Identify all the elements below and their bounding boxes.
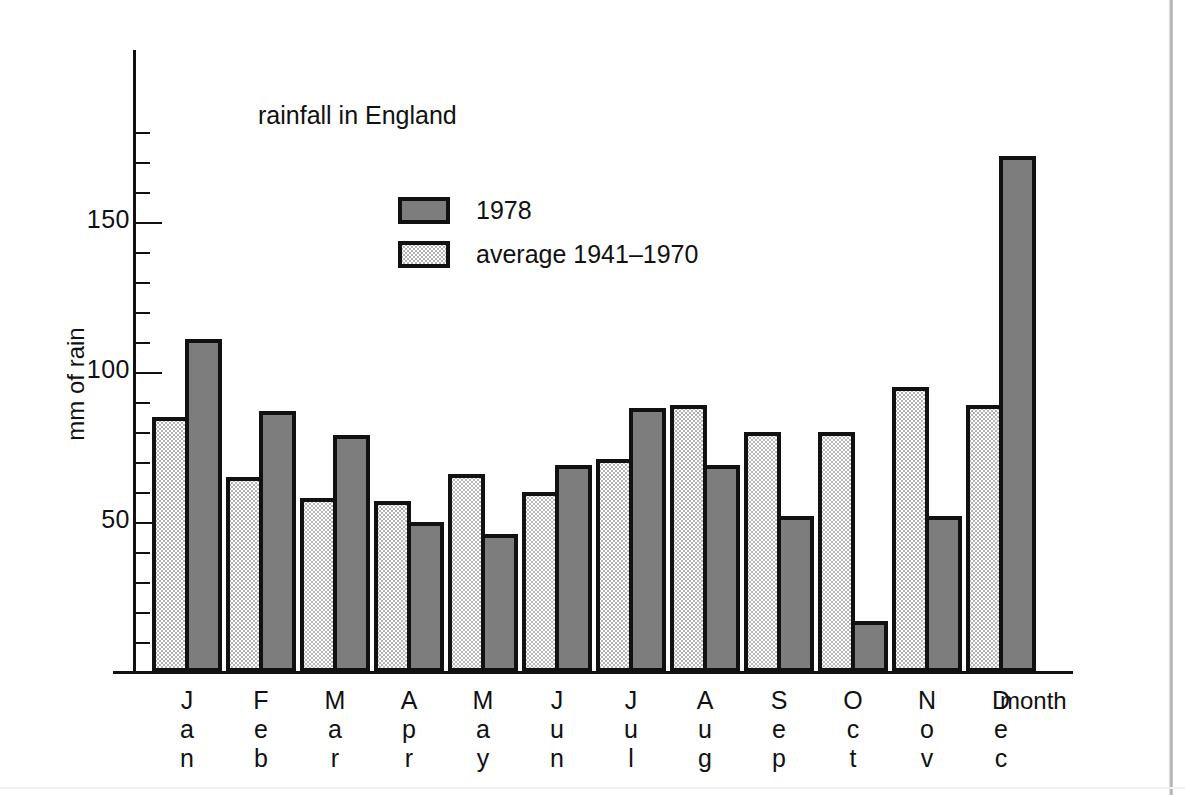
bar-1978-jun xyxy=(555,465,592,672)
bar-1978-jan xyxy=(185,339,222,672)
bar-average-apr xyxy=(374,501,411,672)
bar-average-jan xyxy=(152,417,189,672)
month-label-char: J xyxy=(152,686,222,715)
month-label-may: May xyxy=(448,686,518,773)
bar-1978-dec xyxy=(999,156,1036,672)
scan-edge-bottom xyxy=(0,787,1185,789)
month-label-char: r xyxy=(300,744,370,773)
legend-label-average: average 1941–1970 xyxy=(476,240,698,269)
y-tick-minor-70 xyxy=(136,462,150,464)
y-axis-title: mm of rain xyxy=(62,294,90,474)
bar-1978-may xyxy=(481,534,518,672)
month-label-mar: Mar xyxy=(300,686,370,773)
y-tick-minor-110 xyxy=(136,342,150,344)
month-label-jul: Jul xyxy=(596,686,666,773)
y-tick-label-50: 50 xyxy=(60,505,130,534)
month-label-char: t xyxy=(818,744,888,773)
month-label-aug: Aug xyxy=(670,686,740,773)
bar-average-jun xyxy=(522,492,559,672)
month-label-char: p xyxy=(374,715,444,744)
y-tick-minor-20 xyxy=(136,612,150,614)
y-tick-minor-60 xyxy=(136,492,150,494)
bar-average-oct xyxy=(818,432,855,672)
month-label-feb: Feb xyxy=(226,686,296,773)
month-label-char: A xyxy=(670,686,740,715)
bar-1978-jul xyxy=(629,408,666,672)
y-tick-minor-90 xyxy=(136,402,150,404)
legend-label-1978: 1978 xyxy=(476,196,532,225)
legend-swatch-average xyxy=(398,241,450,268)
y-tick-minor-30 xyxy=(136,582,150,584)
month-label-char: A xyxy=(374,686,444,715)
y-tick-label-100: 100 xyxy=(60,355,130,384)
month-label-char: M xyxy=(448,686,518,715)
month-label-char: b xyxy=(226,744,296,773)
legend-swatch-1978 xyxy=(398,197,450,224)
month-label-dec: Dec xyxy=(966,686,1036,773)
rainfall-bar-chart: rainfall in England mm of rain month 501… xyxy=(0,0,1185,795)
y-tick-major-100 xyxy=(136,372,162,374)
month-label-char: a xyxy=(448,715,518,744)
bar-1978-mar xyxy=(333,435,370,672)
y-tick-minor-130 xyxy=(136,282,150,284)
bar-average-jul xyxy=(596,459,633,672)
bar-1978-sep xyxy=(777,516,814,672)
month-label-char: a xyxy=(300,715,370,744)
month-label-char: y xyxy=(448,744,518,773)
bar-average-dec xyxy=(966,405,1003,672)
y-tick-label-150: 150 xyxy=(60,205,130,234)
month-label-char: o xyxy=(892,715,962,744)
bar-average-feb xyxy=(226,477,263,672)
month-label-char: e xyxy=(966,715,1036,744)
bar-average-aug xyxy=(670,405,707,672)
y-tick-major-150 xyxy=(136,222,162,224)
month-label-char: r xyxy=(374,744,444,773)
bar-1978-nov xyxy=(925,516,962,672)
y-tick-minor-80 xyxy=(136,432,150,434)
bar-1978-aug xyxy=(703,465,740,672)
month-label-char: u xyxy=(670,715,740,744)
chart-legend: 1978 average 1941–1970 xyxy=(398,188,698,276)
month-label-oct: Oct xyxy=(818,686,888,773)
month-label-char: p xyxy=(744,744,814,773)
month-label-sep: Sep xyxy=(744,686,814,773)
y-axis-line xyxy=(133,50,136,674)
month-label-char: u xyxy=(596,715,666,744)
month-label-char: D xyxy=(966,686,1036,715)
month-label-char: v xyxy=(892,744,962,773)
month-label-jun: Jun xyxy=(522,686,592,773)
month-label-char: g xyxy=(670,744,740,773)
month-label-apr: Apr xyxy=(374,686,444,773)
month-label-char: N xyxy=(892,686,962,715)
bar-average-sep xyxy=(744,432,781,672)
scan-edge-right xyxy=(1169,0,1173,795)
y-tick-minor-180 xyxy=(136,132,150,134)
month-label-char: l xyxy=(596,744,666,773)
legend-entry-1978: 1978 xyxy=(398,188,698,232)
bar-1978-apr xyxy=(407,522,444,672)
month-label-char: O xyxy=(818,686,888,715)
month-label-char: F xyxy=(226,686,296,715)
bar-1978-feb xyxy=(259,411,296,672)
month-label-char: n xyxy=(522,744,592,773)
month-label-char: M xyxy=(300,686,370,715)
month-label-char: S xyxy=(744,686,814,715)
bar-average-nov xyxy=(892,387,929,672)
month-label-char: u xyxy=(522,715,592,744)
month-label-jan: Jan xyxy=(152,686,222,773)
y-tick-minor-10 xyxy=(136,642,150,644)
chart-title: rainfall in England xyxy=(258,101,457,130)
month-label-char: e xyxy=(226,715,296,744)
month-label-char: J xyxy=(596,686,666,715)
month-label-nov: Nov xyxy=(892,686,962,773)
month-label-char: c xyxy=(818,715,888,744)
bar-average-mar xyxy=(300,498,337,672)
month-label-char: c xyxy=(966,744,1036,773)
month-label-char: a xyxy=(152,715,222,744)
month-label-char: J xyxy=(522,686,592,715)
legend-entry-average: average 1941–1970 xyxy=(398,232,698,276)
y-tick-minor-160 xyxy=(136,192,150,194)
month-label-char: n xyxy=(152,744,222,773)
month-label-char: e xyxy=(744,715,814,744)
y-tick-minor-170 xyxy=(136,162,150,164)
